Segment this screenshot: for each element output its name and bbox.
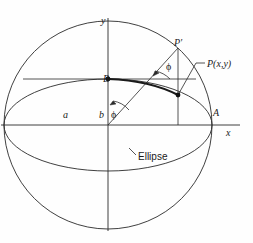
angle-phi-upper-label: ϕ [166, 62, 171, 72]
ellipse-callout-label: Ellipse [138, 152, 167, 162]
leader-line-ellipse [129, 148, 136, 155]
semi-minor-axis-label: b [99, 110, 104, 120]
y-axis-label: y [101, 16, 105, 26]
point-p-prime-label: P′ [174, 38, 182, 48]
point-p-label: P(x,y) [207, 59, 231, 69]
point-b-label: B [103, 74, 109, 84]
ellipse-construction-figure: y x A B a b P′ P(x,y) ϕ ϕ Ellipse [0, 0, 253, 243]
radius-line-to-p-prime [108, 48, 178, 125]
x-axis-label: x [226, 128, 230, 138]
angle-phi-lower-label: ϕ [111, 110, 116, 120]
point-marker-p [176, 93, 181, 98]
figure-canvas [0, 0, 253, 243]
semi-major-axis-label: a [63, 110, 68, 120]
point-a-label: A [213, 108, 219, 118]
